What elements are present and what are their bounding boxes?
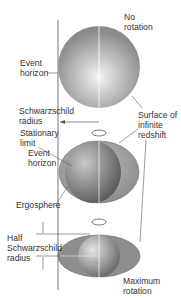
label-ergosphere: Ergosphere [16, 200, 60, 210]
event-horizon-mid [65, 141, 121, 203]
label-no-rotation: No rotation [124, 12, 153, 32]
label-maximum-rotation: Maximum rotation [123, 276, 160, 296]
label-event-horizon-top: Event horizon [20, 58, 48, 78]
label-surface-infinite-redshift: Surface of infinite redshift [138, 110, 177, 140]
label-stationary-limit: Stationary limit [20, 128, 59, 148]
rotation-arrow-icon [92, 130, 106, 136]
label-event-horizon-mid: Event horizon [28, 148, 56, 168]
label-schwarzschild-radius: Schwarzschild radius [19, 106, 74, 126]
rotation-arrow-icon [92, 219, 106, 225]
label-half-schwarzschild-radius: Half Schwarzschild radius [7, 233, 62, 263]
